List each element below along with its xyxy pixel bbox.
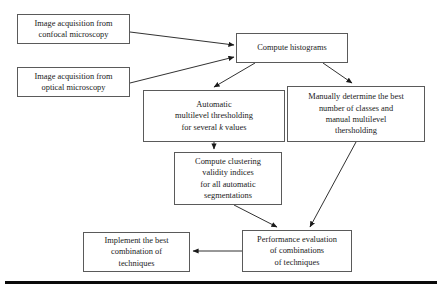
bottom-rule (5, 281, 437, 284)
compute-histograms: Compute histograms (236, 33, 348, 63)
implement-best-combination-label: Implement the best combination of techni… (84, 235, 189, 269)
compute-clustering-validity-indices: Compute clustering validity indices for … (174, 152, 282, 205)
edge-confocal-to-histograms (130, 32, 234, 45)
compute-histograms-label: Compute histograms (237, 42, 347, 53)
edge-histograms-to-manual (323, 63, 352, 83)
image-acquisition-confocal-label: Image acquisition from confocal microsco… (18, 18, 129, 41)
manual-multilevel-thresholding-label: Manually determine the best number of cl… (288, 91, 424, 137)
automatic-multilevel-thresholding: Automaticmultilevel thresholdingfor seve… (143, 90, 285, 142)
edge-manual-to-performance (310, 142, 356, 227)
manual-multilevel-thresholding: Manually determine the best number of cl… (287, 86, 425, 142)
compute-clustering-validity-indices-label: Compute clustering validity indices for … (175, 156, 281, 202)
performance-evaluation: Performance evaluation of combinations o… (242, 230, 352, 272)
image-acquisition-confocal: Image acquisition from confocal microsco… (17, 14, 130, 44)
edge-optical-to-histograms (130, 57, 234, 83)
image-acquisition-optical-label: Image acquisition from optical microscop… (18, 71, 129, 94)
edge-histograms-to-automatic (214, 63, 255, 87)
performance-evaluation-label: Performance evaluation of combinations o… (243, 234, 351, 268)
edge-clustering-to-performance (234, 205, 277, 227)
implement-best-combination: Implement the best combination of techni… (83, 232, 190, 272)
flowchart-canvas: Image acquisition from confocal microsco… (0, 0, 443, 298)
automatic-multilevel-thresholding-label: Automaticmultilevel thresholdingfor seve… (144, 99, 284, 133)
image-acquisition-optical: Image acquisition from optical microscop… (17, 67, 130, 97)
edge-layer (0, 0, 443, 298)
